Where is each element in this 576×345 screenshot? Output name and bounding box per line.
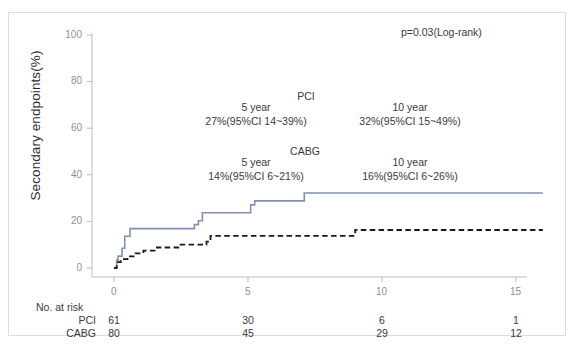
- pci-5year-stat: 5 year 27%(95%CI 14~39%): [186, 101, 326, 129]
- x-tick-label-5: 5: [245, 286, 251, 297]
- cabg-5year-title: 5 year: [186, 156, 326, 170]
- risk-pci-t0: 61: [97, 314, 131, 326]
- risk-cabg-t10: 29: [365, 327, 399, 339]
- cabg-5year-value: 14%(95%CI 6~21%): [186, 170, 326, 184]
- risk-pci-t5: 30: [231, 314, 265, 326]
- x-tick-label-10: 10: [376, 286, 387, 297]
- y-axis-ticks: [87, 35, 92, 268]
- cabg-10year-value: 16%(95%CI 6~26%): [330, 170, 490, 184]
- x-axis-ticks: [114, 277, 516, 282]
- cabg-10year-stat: 10 year 16%(95%CI 6~26%): [330, 156, 490, 184]
- y-tick-label-80: 80: [52, 75, 82, 86]
- risk-table-title: No. at risk: [36, 301, 83, 313]
- pci-5year-title: 5 year: [186, 101, 326, 115]
- x-tick-label-0: 0: [111, 286, 117, 297]
- y-tick-label-20: 20: [52, 215, 82, 226]
- risk-pci-t15: 1: [499, 314, 533, 326]
- y-tick-label-0: 0: [52, 262, 82, 273]
- x-tick-label-15: 15: [510, 286, 521, 297]
- y-axis-title: Secondary endpoints(%): [28, 36, 43, 216]
- pvalue-annotation: p=0.03(Log-rank): [401, 26, 482, 38]
- risk-cabg-t0: 80: [97, 327, 131, 339]
- risk-cabg-t5: 45: [231, 327, 265, 339]
- pci-10year-value: 32%(95%CI 15~49%): [330, 115, 490, 129]
- risk-pci-t10: 6: [365, 314, 399, 326]
- cabg-10year-title: 10 year: [330, 156, 490, 170]
- cabg-survival-curve: [114, 230, 543, 268]
- y-tick-label-60: 60: [52, 122, 82, 133]
- pci-5year-value: 27%(95%CI 14~39%): [186, 115, 326, 129]
- risk-row-label-pci: PCI: [40, 314, 96, 326]
- pci-10year-stat: 10 year 32%(95%CI 15~49%): [330, 101, 490, 129]
- risk-row-label-cabg: CABG: [40, 327, 96, 339]
- cabg-5year-stat: 5 year 14%(95%CI 6~21%): [186, 156, 326, 184]
- y-tick-label-100: 100: [52, 29, 82, 40]
- pci-10year-title: 10 year: [330, 101, 490, 115]
- risk-cabg-t15: 12: [499, 327, 533, 339]
- y-tick-label-40: 40: [52, 169, 82, 180]
- kaplan-meier-figure: 100 80 60 40 20 0 0 5 10 15 Secondary en…: [0, 0, 576, 345]
